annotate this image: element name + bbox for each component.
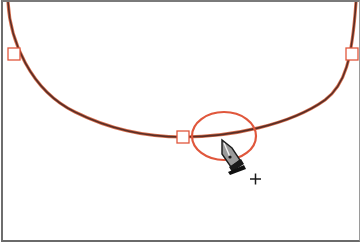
bezier-path[interactable] xyxy=(8,2,356,137)
artwork-layer[interactable] xyxy=(0,0,361,251)
anchor-point-right[interactable] xyxy=(346,48,358,60)
anchor-point-bottom[interactable] xyxy=(177,131,189,143)
pen-tool-cursor-icon xyxy=(222,140,246,175)
plus-icon xyxy=(250,174,261,185)
anchor-point-left[interactable] xyxy=(8,48,20,60)
